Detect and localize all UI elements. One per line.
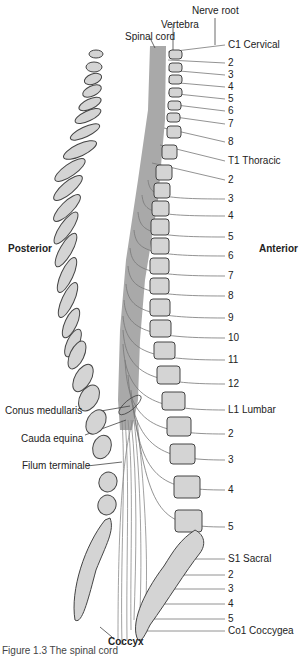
nerve-level-label: S1 Sacral	[228, 554, 271, 564]
nerve-level-label: 7	[228, 119, 234, 129]
nerve-level-label: 8	[228, 291, 234, 301]
vertebra-label: Vertebra	[161, 20, 199, 30]
nerve-level-label: 8	[228, 137, 234, 147]
spinal-cord-label: Spinal cord	[125, 32, 175, 42]
nerve-level-label: 3	[228, 584, 234, 594]
figure-caption: Figure 1.3 The spinal cord	[2, 645, 118, 656]
nerve-level-label: 3	[228, 70, 234, 80]
nerve-level-label: L1 Lumbar	[228, 405, 276, 415]
nerve-level-label: 4	[228, 211, 234, 221]
nerve-level-label: 3	[228, 194, 234, 204]
nerve-level-label: C1 Cervical	[228, 40, 280, 50]
posterior-label: Posterior	[8, 244, 52, 254]
nerve-level-label: T1 Thoracic	[228, 156, 281, 166]
nerve-level-label: 10	[228, 333, 239, 343]
sacrum	[136, 530, 204, 640]
iliac-crest	[74, 518, 111, 621]
nerve-level-label: 2	[228, 570, 234, 580]
nerve-level-label: 6	[228, 106, 234, 116]
anterior-label: Anterior	[259, 244, 298, 254]
nerve-level-label: 2	[228, 58, 234, 68]
nerve-level-label: 12	[228, 379, 239, 389]
nerve-level-label: 3	[228, 455, 234, 465]
filum-leader	[87, 462, 122, 466]
conus-medullaris-label: Conus medullaris	[5, 406, 82, 416]
nerve-level-label: 11	[228, 355, 238, 365]
nerve-level-label: Co1 Coccygea	[228, 626, 294, 636]
filum-terminale-label: Filum terminale	[22, 461, 90, 471]
nerve-level-label: 5	[228, 232, 234, 242]
cauda-equina-label: Cauda equina	[21, 434, 83, 444]
nerve-level-label: 2	[228, 175, 234, 185]
nerve-level-label: 5	[228, 94, 234, 104]
nerve-level-label: 4	[228, 82, 234, 92]
nerve-level-label: 7	[228, 271, 234, 281]
nerve-level-label: 4	[228, 485, 234, 495]
nerve-level-label: 5	[228, 522, 234, 532]
nerve-level-label: 5	[228, 614, 234, 624]
spinous-processes	[50, 50, 120, 621]
nerve-level-label: 2	[228, 429, 234, 439]
nerve-level-label: 6	[228, 251, 234, 261]
nerve-level-label: 4	[228, 599, 234, 609]
nerve-level-label: 9	[228, 313, 234, 323]
nerve-root-label: Nerve root	[192, 6, 239, 16]
